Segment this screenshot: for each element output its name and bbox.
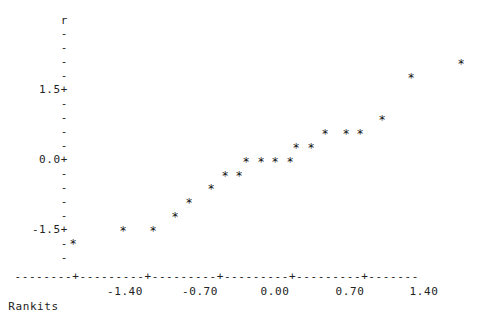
x-axis-title-text: Rankits bbox=[8, 300, 59, 313]
data-point-marker: * bbox=[407, 72, 414, 84]
data-point-marker: * bbox=[457, 58, 464, 70]
x-axis-line: --------+---------+---------+---------+-… bbox=[0, 271, 487, 283]
data-point-marker: * bbox=[286, 156, 293, 168]
x-axis-tick-labels: -1.40-0.700.000.701.40 bbox=[0, 285, 487, 298]
data-point-marker: * bbox=[378, 114, 385, 126]
x-axis-title: Rankits bbox=[0, 300, 487, 313]
scatter-data-layer: ******************** bbox=[0, 0, 487, 290]
data-point-marker: * bbox=[171, 211, 178, 223]
x-axis-tick-label: 0.00 bbox=[261, 285, 290, 298]
data-point-marker: * bbox=[342, 128, 349, 140]
data-point-marker: * bbox=[257, 156, 264, 168]
x-axis-tick-label: -1.40 bbox=[107, 285, 143, 298]
data-point-marker: * bbox=[207, 183, 214, 195]
data-point-marker: * bbox=[185, 197, 192, 209]
data-point-marker: * bbox=[321, 128, 328, 140]
data-point-marker: * bbox=[292, 142, 299, 154]
data-point-marker: * bbox=[235, 170, 242, 182]
data-point-marker: * bbox=[119, 225, 126, 237]
data-point-marker: * bbox=[221, 170, 228, 182]
data-point-marker: * bbox=[149, 225, 156, 237]
data-point-marker: * bbox=[69, 238, 76, 250]
x-axis-tick-label: 1.40 bbox=[410, 285, 439, 298]
normal-probability-plot: r----1.5+----0.0+-----1.5+-- ***********… bbox=[0, 0, 487, 322]
data-point-marker: * bbox=[356, 128, 363, 140]
data-point-marker: * bbox=[271, 156, 278, 168]
x-axis-tick-label: 0.70 bbox=[336, 285, 365, 298]
x-axis-tick-label: -0.70 bbox=[182, 285, 218, 298]
data-point-marker: * bbox=[242, 156, 249, 168]
data-point-marker: * bbox=[307, 142, 314, 154]
